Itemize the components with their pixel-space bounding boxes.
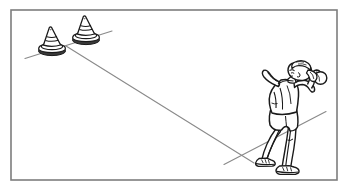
throwing-activity-illustration	[0, 0, 348, 191]
illustration-root: Black and white line drawing inside a th…	[0, 0, 348, 191]
